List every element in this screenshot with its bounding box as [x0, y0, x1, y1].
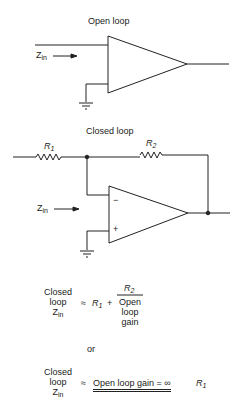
- equation1-lhs: Closed loop Zin: [40, 287, 76, 320]
- closed-loop-zin-label: Zin: [37, 204, 48, 214]
- equation2-condition: Open loop gain = ∞: [93, 379, 171, 388]
- r2-resistor-icon: [140, 152, 162, 158]
- denominator-line-gain: gain: [114, 317, 146, 327]
- equation2-approx: ≈: [81, 379, 86, 388]
- equation1-numerator: R2: [124, 284, 134, 294]
- denominator-line-loop: loop: [114, 307, 146, 317]
- denominator-line-open: Open: [114, 297, 146, 307]
- output-node-icon: [206, 211, 210, 215]
- closed-loop-zin-arrow-icon: [54, 207, 79, 211]
- equation2-r1: R1: [196, 379, 206, 389]
- open-loop-ground-icon: [79, 103, 93, 109]
- r2-label: R2: [146, 139, 156, 149]
- open-loop-zin-label: Zin: [36, 51, 47, 61]
- open-loop-title: Open loop: [88, 17, 130, 26]
- lhs-line-loop: loop: [40, 297, 76, 307]
- equation1-approx: ≈: [81, 299, 86, 308]
- feedback-wire: [162, 155, 208, 213]
- r1-resistor-icon: [36, 154, 61, 160]
- open-loop-circuit: [35, 36, 229, 109]
- minus-sign: −: [113, 196, 118, 205]
- plus-sign: +: [113, 225, 118, 234]
- open-loop-opamp-triangle: [108, 36, 187, 93]
- equation1-r1: R1: [92, 299, 102, 309]
- lhs-line-zin: Zin: [40, 387, 76, 400]
- equation1-plus: +: [107, 299, 112, 308]
- lhs-line-zin: Zin: [40, 307, 76, 320]
- noninverting-ground-wire: [87, 231, 109, 250]
- closed-loop-ground-icon: [80, 251, 94, 257]
- lhs-line-loop: loop: [40, 377, 76, 387]
- inverting-input-wire: [87, 157, 109, 195]
- open-loop-zin-arrow-icon: [53, 54, 77, 58]
- lhs-line-closed: Closed: [40, 287, 76, 297]
- open-loop-ground-wire: [86, 84, 108, 102]
- equation2-lhs: Closed loop Zin: [40, 367, 76, 400]
- r1-label: R1: [44, 142, 54, 152]
- equation1-denominator: Open loop gain: [114, 297, 146, 327]
- or-text: or: [87, 345, 95, 354]
- lhs-line-closed: Closed: [40, 367, 76, 377]
- closed-loop-title: Closed loop: [86, 127, 134, 136]
- closed-loop-opamp-triangle: [109, 186, 188, 243]
